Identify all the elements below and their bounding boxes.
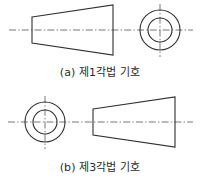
- third-angle-drawing: [0, 90, 200, 160]
- projection-symbols-figure: (a) 제1각법 기호 (b) 제3각법 기호: [0, 0, 200, 181]
- first-angle-drawing: [0, 0, 200, 66]
- first-angle-caption: (a) 제1각법 기호: [0, 66, 200, 79]
- third-angle-projection-figure: (b) 제3각법 기호: [0, 90, 200, 181]
- first-angle-projection-figure: (a) 제1각법 기호: [0, 0, 200, 90]
- third-angle-caption: (b) 제3각법 기호: [0, 161, 200, 174]
